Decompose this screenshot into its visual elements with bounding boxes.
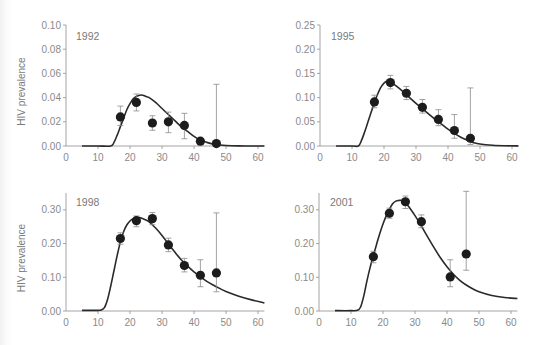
y-tick-label: 0.30 <box>295 204 315 215</box>
figure: 0.000.020.040.060.080.100102030405060199… <box>0 0 535 345</box>
x-tick-label: 50 <box>220 152 232 163</box>
model-curve <box>82 95 264 146</box>
y-tick-label: 0.30 <box>42 204 62 215</box>
hiv-prevalence-chart-grid: 0.000.020.040.060.080.100102030405060199… <box>0 0 535 345</box>
y-tick-label: 0.06 <box>42 68 62 79</box>
y-tick-label: 0.10 <box>42 272 62 283</box>
panel-title: 1995 <box>331 30 355 42</box>
x-tick-label: 60 <box>506 152 518 163</box>
x-tick-label: 0 <box>317 152 323 163</box>
data-point <box>180 261 189 270</box>
data-point <box>385 209 394 218</box>
data-point <box>462 249 471 258</box>
y-tick-label: 0.08 <box>42 44 62 55</box>
y-tick-label: 0.20 <box>296 44 316 55</box>
x-tick-label: 40 <box>442 152 454 163</box>
data-point <box>196 137 205 146</box>
data-point <box>132 216 141 225</box>
data-point <box>402 89 411 98</box>
y-axis-label: HIV prevalence <box>16 223 27 292</box>
panel-1998: 0.000.100.200.3001020304050601998HIV pre… <box>16 193 264 328</box>
data-point <box>148 118 157 127</box>
data-point <box>212 139 221 148</box>
data-point <box>116 112 125 121</box>
y-tick-label: 0.25 <box>296 20 316 31</box>
model-curve <box>335 200 517 310</box>
y-tick-label: 0.10 <box>42 20 62 31</box>
y-tick-label: 0.00 <box>42 306 62 317</box>
data-point <box>417 217 426 226</box>
y-tick-label: 0.10 <box>296 92 316 103</box>
data-point <box>196 271 205 280</box>
x-tick-label: 10 <box>345 317 357 328</box>
y-tick-label: 0.20 <box>295 238 315 249</box>
data-point <box>370 97 379 106</box>
data-point <box>386 78 395 87</box>
x-tick-label: 30 <box>410 152 422 163</box>
x-tick-label: 0 <box>63 317 69 328</box>
x-tick-label: 40 <box>188 317 200 328</box>
x-tick-label: 10 <box>92 317 104 328</box>
x-tick-label: 0 <box>316 317 322 328</box>
data-point <box>116 234 125 243</box>
data-point <box>148 214 157 223</box>
panel-title: 1998 <box>76 196 100 208</box>
data-point <box>434 115 443 124</box>
x-tick-label: 50 <box>473 317 485 328</box>
x-tick-label: 20 <box>378 152 390 163</box>
x-tick-label: 60 <box>252 152 264 163</box>
x-tick-label: 30 <box>156 152 168 163</box>
y-tick-label: 0.04 <box>42 92 62 103</box>
x-tick-label: 30 <box>156 317 168 328</box>
y-tick-label: 0.02 <box>42 116 62 127</box>
x-tick-label: 10 <box>346 152 358 163</box>
x-tick-label: 40 <box>188 152 200 163</box>
panel-title: 2001 <box>330 196 354 208</box>
x-tick-label: 20 <box>124 152 136 163</box>
y-tick-label: 0.00 <box>42 141 62 152</box>
model-curve <box>336 81 518 146</box>
data-point <box>401 197 410 206</box>
y-tick-label: 0.20 <box>42 238 62 249</box>
x-tick-label: 10 <box>92 152 104 163</box>
data-point <box>446 272 455 281</box>
data-point <box>164 240 173 249</box>
y-tick-label: 0.15 <box>296 68 316 79</box>
panel-1995: 0.000.050.100.150.200.250102030405060199… <box>296 20 519 164</box>
y-tick-label: 0.05 <box>296 116 316 127</box>
model-curve <box>82 217 264 310</box>
y-axis-label: HIV prevalence <box>16 57 27 126</box>
x-tick-label: 50 <box>220 317 232 328</box>
y-tick-label: 0.10 <box>295 272 315 283</box>
x-tick-label: 30 <box>409 317 421 328</box>
data-point <box>466 134 475 143</box>
x-tick-label: 40 <box>441 317 453 328</box>
panel-2001: 0.000.100.200.3001020304050602001 <box>295 191 518 328</box>
y-tick-label: 0.00 <box>296 141 316 152</box>
panel-title: 1992 <box>76 30 100 42</box>
x-tick-label: 20 <box>124 317 136 328</box>
data-point <box>180 121 189 130</box>
data-point <box>132 98 141 107</box>
y-tick-label: 0.00 <box>295 306 315 317</box>
data-point <box>369 252 378 261</box>
data-point <box>164 117 173 126</box>
x-tick-label: 60 <box>505 317 517 328</box>
panel-1992: 0.000.020.040.060.080.100102030405060199… <box>16 20 264 164</box>
data-point <box>418 103 427 112</box>
x-tick-label: 0 <box>63 152 69 163</box>
x-tick-label: 60 <box>252 317 264 328</box>
x-tick-label: 20 <box>377 317 389 328</box>
x-tick-label: 50 <box>474 152 486 163</box>
data-point <box>212 268 221 277</box>
data-point <box>450 126 459 135</box>
